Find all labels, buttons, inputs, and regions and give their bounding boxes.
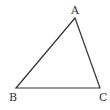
vertex-label-a: A	[70, 4, 80, 17]
vertex-label-c: C	[99, 91, 107, 104]
triangle-abc	[16, 18, 100, 88]
vertex-label-b: B	[9, 91, 17, 104]
triangle-diagram: A B C	[0, 0, 110, 110]
